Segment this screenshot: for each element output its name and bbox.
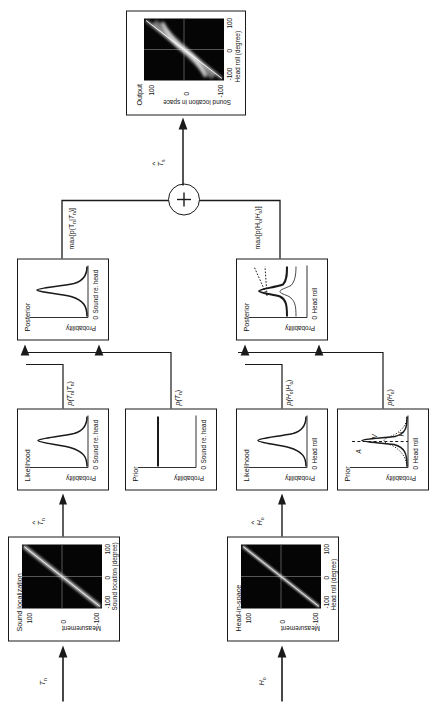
plot-likelihood-left [30, 413, 92, 469]
axis-label-probability-lh-left: Probability [66, 474, 96, 481]
axis-label-probability-prior-right: Probability [386, 474, 416, 481]
arrowhead-into-posterior-left-2 [92, 340, 106, 356]
label-p-tn: p(Tn) [174, 389, 183, 405]
ytick-sl-100: 100 [26, 612, 33, 623]
xtick-sl-neg100: -100 [104, 595, 111, 608]
plot-posterior-right [249, 263, 311, 319]
axis-label-head-roll-lh: Head roll [311, 437, 318, 463]
xtick-his-0: 0 [323, 575, 330, 579]
label-ho-hat: Ho ^ [255, 517, 265, 525]
curve-label-V: V [371, 434, 378, 438]
xtick-out-neg100: -100 [226, 67, 233, 80]
xtick-post-right-zero: 0 [311, 315, 318, 319]
arrow-sum-to-output [175, 113, 191, 185]
panel-output: Output Sound location in space 100 0 -10… [126, 10, 246, 115]
xtick-sl-0: 0 [104, 575, 111, 579]
panel-likelihood-left: Likelihood Probability 0 Sound re. head [17, 408, 109, 490]
panel-posterior-left: Posterior Probability 0 Sound re. head [17, 258, 109, 340]
axis-label-head-roll-post: Head roll [311, 287, 318, 313]
label-max-p-ho: max[p(Ho|Ho)] [254, 206, 263, 249]
ytick-sl-0: 0 [60, 619, 67, 623]
label-ts-hat: Ts ^ [156, 159, 166, 166]
curve-label-H: H [398, 431, 405, 436]
label-p-ho: p(Ho) [386, 389, 395, 405]
input-label-ho: Ho [257, 677, 267, 685]
ytick-out-neg100: -100 [217, 84, 224, 97]
xtick-his-100: 100 [323, 543, 330, 554]
axis-label-sound-re-head-prior: Sound re. head [200, 419, 207, 463]
ytick-out-0: 0 [183, 91, 190, 95]
arrow-meas-tn [55, 490, 71, 536]
xtick-prior-left-zero: 0 [200, 465, 207, 469]
arrow-prior-right-to-posterior [378, 338, 424, 408]
panel-likelihood-right: Likelihood Probability 0 Head roll [236, 408, 328, 490]
heatmap-sound-localization [22, 544, 102, 608]
axis-label-head-roll-deg: Head roll (degree) [330, 558, 337, 610]
plot-prior-right [350, 413, 412, 469]
plot-posterior-left [30, 263, 92, 319]
axis-label-probability-prior-left: Probability [174, 474, 204, 481]
axis-label-head-roll-output: Head roll (degree) [234, 30, 241, 82]
arrowhead-into-posterior-left [18, 340, 32, 356]
axis-label-probability-lh-right: Probability [285, 474, 315, 481]
input-arrow-ho [274, 641, 290, 703]
axis-label-sound-location: Sound location (degree) [111, 542, 118, 610]
xtick-out-0: 0 [226, 48, 233, 52]
axis-label-sound-re-head-post: Sound re. head [92, 269, 99, 313]
ytick-out-100: 100 [148, 84, 155, 95]
panel-prior-left: Prior Probability 0 Sound re. head [125, 408, 217, 490]
xtick-post-left-zero: 0 [92, 315, 99, 319]
summation-node [168, 183, 200, 215]
plot-prior-left [138, 413, 200, 469]
heatmap-output [144, 18, 224, 80]
panel-prior-right: Prior Probability A V H 0 Head roll [337, 408, 429, 490]
xtick-sl-100: 100 [104, 543, 111, 554]
axis-label-sound-location-in-space: Sound location in space [163, 98, 231, 105]
panel-title-output: Output [135, 83, 144, 105]
ytick-his-neg100: -100 [312, 612, 319, 625]
arrow-posterior-left-to-sum [40, 166, 190, 258]
axis-label-sound-re-head-lh: Sound re. head [92, 419, 99, 463]
ytick-his-100: 100 [245, 612, 252, 623]
axis-label-probability-post-left: Probability [66, 324, 96, 331]
arrowhead-into-posterior-right-2 [312, 340, 326, 356]
xtick-lh-left-zero: 0 [92, 465, 99, 469]
xtick-out-100: 100 [226, 17, 233, 28]
curve-label-A: A [355, 449, 362, 453]
xtick-prior-right-zero: 0 [412, 465, 419, 469]
ytick-his-0: 0 [279, 619, 286, 623]
label-p-hohat-given-ho: p(Ho|Ho) [285, 379, 294, 405]
arrow-meas-ho [274, 490, 290, 536]
input-arrow-tn [55, 641, 71, 703]
axis-label-head-roll-prior: Head roll [412, 437, 419, 463]
input-label-tn: Tn [38, 678, 48, 685]
plot-likelihood-right [249, 413, 311, 469]
xtick-lh-right-zero: 0 [311, 465, 318, 469]
arrowhead-into-posterior-right [238, 340, 252, 356]
panel-posterior-right: Posterior Probability 0 Head roll [236, 258, 328, 340]
xtick-his-neg100: -100 [323, 595, 330, 608]
axis-label-probability-post-right: Probability [285, 324, 315, 331]
arrow-prior-left-to-posterior [166, 338, 212, 408]
heatmap-head-in-space [241, 544, 321, 608]
label-tn-hat: Tn ^ [36, 518, 46, 525]
label-p-tnhat-given-tn: p(Tn|Tn) [66, 381, 75, 405]
label-max-p-tn: max[p(Tn|Tn)] [68, 207, 77, 249]
panel-sound-localization: Sound localization Measurement 100 0 -10… [8, 536, 120, 641]
panel-head-in-space: Head-in-space Measurement 100 0 -100 -10… [227, 536, 339, 641]
ytick-sl-neg100: -100 [93, 612, 100, 625]
